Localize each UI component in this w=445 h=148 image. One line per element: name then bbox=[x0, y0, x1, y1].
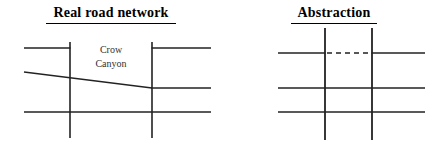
road-label-crow-canyon: Crow Canyon bbox=[80, 43, 142, 71]
real-road-network-diagram bbox=[0, 0, 222, 148]
abstraction-diagram bbox=[223, 0, 445, 148]
panel-real-road-network: Real road network Crow Canyon bbox=[0, 0, 222, 148]
road-label-crow-canyon-line2: Canyon bbox=[80, 57, 142, 71]
panel-abstraction: Abstraction bbox=[223, 0, 445, 148]
crow-canyon-road-west bbox=[24, 72, 152, 88]
road-network-abstraction-figure: Real road network Crow Canyon Abstractio… bbox=[0, 0, 445, 148]
road-label-crow-canyon-line1: Crow bbox=[80, 43, 142, 57]
